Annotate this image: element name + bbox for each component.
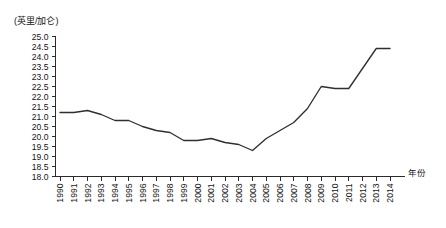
y-tick-label: 23.0 xyxy=(32,72,49,82)
x-tick-label: 2001 xyxy=(206,183,216,202)
y-tick-label: 22.0 xyxy=(32,92,49,102)
x-tick-label: 2002 xyxy=(220,183,230,202)
fuel-economy-line-chart: (英里/加仑) 年份 25.024.524.023.523.022.522.02… xyxy=(0,0,446,228)
x-tick-label: 2004 xyxy=(248,183,258,202)
x-tick-label: 2011 xyxy=(344,183,354,202)
x-tick-label: 1994 xyxy=(110,183,120,202)
x-axis-ticks: 1990199119921993199419951996199719981999… xyxy=(55,177,395,203)
x-tick-label: 1996 xyxy=(138,183,148,202)
x-tick-label: 1998 xyxy=(165,183,175,202)
x-tick-label: 1991 xyxy=(69,183,79,202)
y-tick-label: 22.5 xyxy=(32,82,49,92)
x-tick-label: 2013 xyxy=(371,183,381,202)
y-tick-label: 20.5 xyxy=(32,122,49,132)
data-series-line xyxy=(60,49,390,151)
x-tick-label: 1992 xyxy=(83,183,93,202)
y-tick-label: 21.5 xyxy=(32,102,49,112)
chart-plot-area: 25.024.524.023.523.022.522.021.521.020.5… xyxy=(0,0,446,228)
y-tick-label: 19.5 xyxy=(32,142,49,152)
y-tick-label: 25.0 xyxy=(32,32,49,42)
x-tick-label: 2008 xyxy=(303,183,313,202)
y-tick-label: 23.5 xyxy=(32,62,49,72)
x-tick-label: 1995 xyxy=(124,183,134,202)
x-tick-label: 2010 xyxy=(330,183,340,202)
x-tick-label: 2009 xyxy=(316,183,326,202)
y-tick-label: 19.0 xyxy=(32,152,49,162)
x-tick-label: 2003 xyxy=(234,183,244,202)
y-tick-label: 20.0 xyxy=(32,132,49,142)
x-tick-label: 1997 xyxy=(151,183,161,202)
y-tick-label: 18.0 xyxy=(32,172,49,182)
x-tick-label: 2006 xyxy=(275,183,285,202)
x-tick-label: 2000 xyxy=(193,183,203,202)
x-tick-label: 1999 xyxy=(179,183,189,202)
x-tick-label: 2014 xyxy=(385,183,395,202)
y-tick-label: 24.0 xyxy=(32,52,49,62)
y-axis-ticks: 25.024.524.023.523.022.522.021.521.020.5… xyxy=(32,32,56,182)
x-tick-label: 1993 xyxy=(96,183,106,202)
x-tick-label: 1990 xyxy=(55,183,65,202)
y-tick-label: 18.5 xyxy=(32,162,49,172)
x-tick-label: 2007 xyxy=(289,183,299,202)
x-tick-label: 2005 xyxy=(261,183,271,202)
x-tick-label: 2012 xyxy=(358,183,368,202)
y-tick-label: 24.5 xyxy=(32,42,49,52)
y-tick-label: 21.0 xyxy=(32,112,49,122)
